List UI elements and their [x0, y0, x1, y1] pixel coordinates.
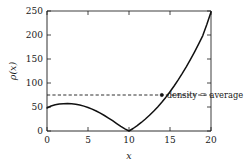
x-axis-title: x [126, 150, 132, 161]
density-curve [47, 12, 211, 131]
x-tick-label: 0 [44, 135, 50, 145]
y-tick-label: 150 [26, 54, 43, 64]
y-tick-labels: 0 50 100 150 200 250 [26, 6, 43, 136]
y-axis-title: ρ(x) [7, 62, 18, 82]
x-tick-label: 5 [85, 135, 91, 145]
chart-figure: 0 50 100 150 200 250 0 5 10 15 20 x ρ(x)… [0, 0, 249, 167]
axes-top-right [47, 11, 211, 131]
y-tick-label: 250 [26, 6, 43, 16]
x-tick-label: 15 [164, 135, 176, 145]
plot-frame [47, 11, 211, 131]
axes-lines [47, 11, 211, 131]
density-average-annotation: density = average [167, 90, 243, 100]
chart-svg: 0 50 100 150 200 250 0 5 10 15 20 x ρ(x)… [0, 0, 249, 167]
x-tick-label: 10 [123, 135, 135, 145]
y-tick-label: 200 [26, 30, 43, 40]
x-tick-label: 20 [205, 135, 217, 145]
y-tick-label: 50 [32, 102, 44, 112]
y-axis-ticks [47, 11, 211, 131]
x-tick-labels: 0 5 10 15 20 [44, 135, 217, 145]
y-tick-label: 0 [37, 126, 43, 136]
x-axis-ticks [47, 11, 211, 131]
y-tick-label: 100 [26, 78, 43, 88]
intersection-point-marker [160, 93, 163, 96]
